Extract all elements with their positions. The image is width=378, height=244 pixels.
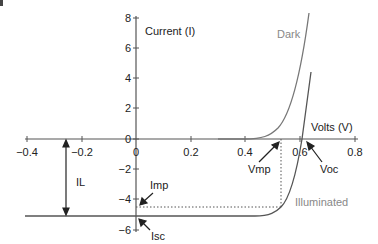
isc-label: Isc — [151, 230, 166, 242]
x-tick-label: 0 — [133, 146, 139, 158]
y-axis-title: Current (I) — [145, 25, 195, 37]
imp-label: Imp — [150, 179, 168, 191]
illuminated-curve-label: Illuminated — [295, 196, 348, 208]
il-label: IL — [76, 176, 85, 188]
voc-arrow — [307, 142, 322, 162]
y-tick-label: −4 — [118, 193, 131, 205]
isc-arrow — [139, 219, 150, 230]
x-tick-label: −0.4 — [16, 146, 38, 158]
vmp-label: Vmp — [248, 163, 271, 175]
y-tick-labels: 8 6 4 2 0 −2 −4 −6 — [118, 12, 131, 236]
y-tick-label: −6 — [118, 224, 131, 236]
x-axis-title: Volts (V) — [311, 121, 353, 133]
x-tick-label: 0.2 — [183, 146, 198, 158]
y-tick-label: 0 — [125, 133, 131, 145]
x-tick-label: −0.2 — [71, 146, 93, 158]
x-tick-label: 0.4 — [237, 146, 252, 158]
y-tick-label: −2 — [118, 163, 131, 175]
imp-arrow — [140, 193, 153, 205]
y-tick-label: 6 — [125, 42, 131, 54]
y-tick-label: 2 — [125, 102, 131, 114]
y-tick-label: 4 — [125, 72, 131, 84]
iv-curve-chart: −0.4 −0.2 0 0.2 0.4 0.6 0.8 8 6 4 2 0 −2… — [0, 0, 378, 244]
voc-label: Voc — [320, 163, 339, 175]
y-tick-label: 8 — [125, 12, 131, 24]
il-double-arrow — [63, 140, 69, 215]
x-tick-label: 0.8 — [347, 146, 362, 158]
dark-curve-label: Dark — [277, 28, 301, 40]
vmp-arrow — [259, 142, 279, 162]
